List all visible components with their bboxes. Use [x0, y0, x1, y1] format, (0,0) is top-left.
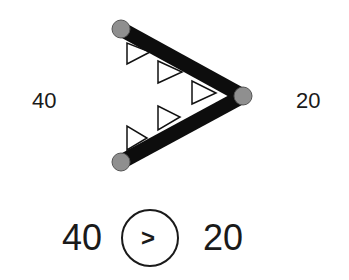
comparison-left-value: 40	[62, 217, 102, 259]
bottom-left-node	[112, 153, 130, 171]
comparison-right-value: 20	[203, 217, 243, 259]
right-label: 20	[296, 88, 320, 114]
lower-line	[121, 96, 243, 162]
top-left-node	[112, 20, 130, 38]
greater-than-symbol: >	[141, 224, 155, 252]
greater-than-diagram	[0, 0, 349, 280]
right-vertex-node	[234, 87, 252, 105]
left-label: 40	[32, 88, 56, 114]
upper-line	[121, 29, 243, 96]
